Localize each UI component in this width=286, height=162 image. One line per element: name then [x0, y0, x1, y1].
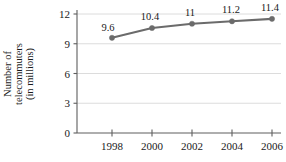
- data-point-label-2000: 10.4: [141, 11, 160, 22]
- x-tick-label-2002: 2002: [181, 140, 203, 152]
- y-tick-label-0: 0: [65, 127, 71, 139]
- chart-canvas: 12 9 6 3 0 1998 2000 2002 2004 2006 9.6: [0, 0, 286, 162]
- data-point-labels: 9.6 10.4 11 11.2 11.4: [101, 2, 279, 33]
- data-point-2006[interactable]: [269, 16, 274, 21]
- y-axis-title-line-3: (in millions): [24, 47, 36, 100]
- data-point-label-2002: 11: [185, 7, 195, 18]
- y-tick-label-12: 12: [59, 8, 70, 20]
- y-tick-label-3: 3: [65, 97, 71, 109]
- y-tick-label-9: 9: [65, 38, 71, 50]
- line-chart: 12 9 6 3 0 1998 2000 2002 2004 2006 9.6: [0, 0, 286, 162]
- data-point-label-1998: 9.6: [101, 22, 114, 33]
- y-axis-title-line-2: telecommuters: [13, 43, 24, 105]
- x-tick-label-2006: 2006: [261, 140, 284, 152]
- y-tick-label-6: 6: [65, 68, 71, 80]
- x-tick-label-2000: 2000: [141, 140, 164, 152]
- x-tick-labels: 1998 2000 2002 2004 2006: [101, 140, 284, 152]
- data-point-label-2004: 11.2: [222, 4, 240, 15]
- y-tick-labels: 12 9 6 3 0: [59, 8, 71, 139]
- data-point-2004[interactable]: [229, 19, 234, 24]
- data-point-2000[interactable]: [149, 25, 154, 30]
- data-point-2002[interactable]: [189, 21, 194, 26]
- x-tick-label-2004: 2004: [221, 140, 244, 152]
- x-tick-label-1998: 1998: [101, 140, 124, 152]
- data-point-label-2006: 11.4: [261, 2, 280, 13]
- y-axis-title-line-1: Number of: [2, 51, 13, 97]
- y-axis-title: Number of telecommuters (in millions): [2, 43, 36, 105]
- data-point-1998[interactable]: [109, 35, 114, 40]
